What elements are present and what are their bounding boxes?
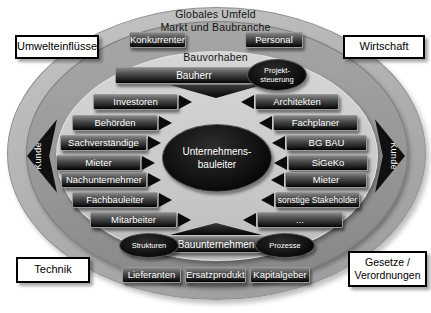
strukturen-label: Strukturen: [132, 241, 167, 250]
wirtschaft-label: Wirtschaft: [360, 40, 409, 54]
box-lieferanten: Lieferanten: [122, 267, 181, 283]
ellipse-prozesse: Prozesse: [255, 233, 315, 258]
box-mieter-rechts: Mieter: [285, 172, 367, 188]
stakeholder-diagram: Globales Umfeld Markt und Baubranche Bau…: [0, 0, 431, 313]
box-architekten: Architekten: [255, 94, 339, 110]
box-sigeko: SiGeKo: [288, 155, 368, 171]
ellipse-projektsteuerung: Projekt- steuerung: [247, 59, 307, 91]
box-nachunternehmer: Nachunternehmer: [61, 172, 147, 188]
label-markt-und-baubranche: Markt und Baubranche: [0, 21, 431, 33]
ellipse-strukturen: Strukturen: [119, 233, 179, 258]
umwelteinfluesse-label: Umwelteinflüsse: [17, 40, 97, 54]
projektsteuerung-line1: Projekt-: [264, 66, 290, 75]
box-kapitalgeber: Kapitalgeber: [250, 267, 310, 283]
corner-box-gesetze-verordnungen: Gesetze / Verordnungen: [348, 251, 427, 287]
box-sachverstaendige: Sachverständige: [60, 135, 147, 151]
box-mieter-links: Mieter: [56, 155, 141, 171]
technik-label: Technik: [34, 263, 71, 277]
label-globales-umfeld: Globales Umfeld: [0, 8, 431, 20]
prozesse-label: Prozesse: [269, 241, 300, 250]
center-line2: bauleiter: [198, 158, 236, 171]
box-konkurrenten: Konkurrenten: [129, 32, 186, 48]
corner-box-wirtschaft: Wirtschaft: [343, 35, 425, 59]
box-bg-bau: BG BAU: [286, 135, 367, 151]
gesetze-line1: Gesetze /: [365, 256, 410, 269]
projektsteuerung-line2: steuerung: [260, 75, 293, 84]
box-personal: Personal: [245, 32, 303, 48]
box-mitarbeiter: Mitarbeiter: [90, 212, 177, 228]
box-sonstige-stakeholder: sonstige Stakeholder: [275, 192, 360, 208]
box-fachplaner: Fachplaner: [273, 115, 358, 131]
box-behoerden: Behörden: [72, 115, 158, 131]
box-weitere: ...: [257, 212, 343, 228]
corner-box-technik: Technik: [16, 257, 90, 283]
corner-box-umwelteinfluesse: Umwelteinflüsse: [15, 35, 99, 59]
ellipse-unternehmensbauleiter: Unternehmens- bauleiter: [162, 124, 272, 192]
box-ersatzprodukte: Ersatzprodukte: [185, 267, 246, 283]
box-investoren: Investoren: [93, 94, 178, 110]
box-fachbauleiter: Fachbauleiter: [72, 192, 158, 208]
center-line1: Unternehmens-: [183, 145, 252, 158]
gesetze-line2: Verordnungen: [355, 269, 421, 282]
